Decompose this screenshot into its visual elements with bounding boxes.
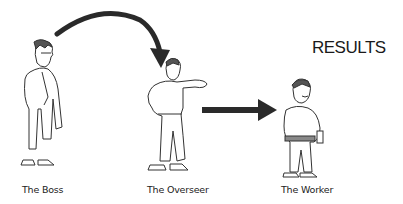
overseer-label: The Overseer	[147, 184, 209, 195]
curved-arrow	[57, 14, 170, 68]
boss-figure	[21, 40, 62, 165]
diagram-canvas	[0, 0, 403, 204]
worker-figure	[283, 79, 323, 177]
straight-arrow	[202, 99, 277, 121]
results-title: RESULTS	[312, 38, 386, 58]
worker-label: The Worker	[281, 184, 333, 195]
overseer-figure	[148, 58, 207, 170]
boss-label: The Boss	[22, 184, 63, 195]
